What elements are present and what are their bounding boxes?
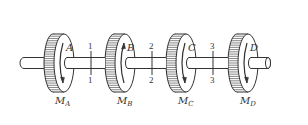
shaft-diagram: A B C D MA MB MC MD 1 1 2 2 3 3 — [0, 0, 308, 125]
moment-label-b: MB — [117, 96, 132, 109]
section-1-bottom-label: 1 — [88, 76, 93, 85]
moment-label-a: MA — [55, 96, 70, 109]
disk-label-d: D — [250, 43, 258, 53]
section-3-bottom-label: 3 — [210, 76, 215, 85]
diagram-drawing — [0, 0, 308, 125]
moment-label-c: MC — [178, 96, 194, 109]
section-3-top-label: 3 — [210, 42, 215, 51]
disk-label-c: C — [188, 43, 196, 53]
disk-label-b: B — [127, 43, 134, 53]
disk-label-a: A — [66, 43, 73, 53]
section-2-top-label: 2 — [149, 42, 154, 51]
shaft-left-end — [20, 58, 24, 69]
shaft-right-end-cap — [266, 58, 271, 69]
section-1-top-label: 1 — [88, 42, 93, 51]
moment-label-d: MD — [240, 96, 256, 109]
section-2-bottom-label: 2 — [149, 76, 154, 85]
